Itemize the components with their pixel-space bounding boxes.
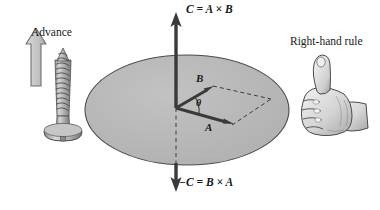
right-hand-rule-label: Right-hand rule [290, 36, 363, 48]
thumbs-up-hand-icon [301, 55, 368, 136]
cross-product-positive-label: C = A × B [186, 4, 233, 16]
screw-icon [44, 48, 82, 141]
angle-theta-label: θ [196, 98, 201, 108]
cross-product-negative-label: −C = B × A [179, 177, 233, 189]
vector-a-label: A [205, 122, 212, 133]
vector-b-label: B [196, 73, 203, 84]
advance-label: Advance [31, 27, 72, 39]
